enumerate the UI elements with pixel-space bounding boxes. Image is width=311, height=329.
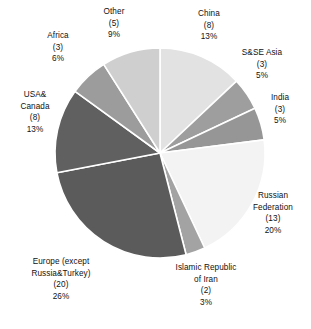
pie-label-europe: Europe (except Russia&Turkey) (20) 26% bbox=[13, 256, 109, 302]
pie-label-ssea-name: S&SE Asia bbox=[228, 47, 296, 59]
pie-label-africa-count: (3) bbox=[32, 42, 84, 54]
pie-label-europe-count: (20) bbox=[13, 279, 109, 291]
pie-label-usa-canada-count: (8) bbox=[6, 112, 64, 124]
pie-label-iran: Islamic Republic of Iran (2) 3% bbox=[164, 262, 248, 308]
pie-label-ssea-percent: 5% bbox=[228, 70, 296, 82]
pie-label-russia: Russian Federation (13) 20% bbox=[240, 190, 306, 236]
pie-label-russia-percent: 20% bbox=[240, 225, 306, 237]
pie-label-india: India (3) 5% bbox=[256, 92, 304, 127]
pie-label-other-percent: 9% bbox=[86, 29, 142, 41]
pie-label-china: China (8) 13% bbox=[182, 8, 236, 43]
pie-label-europe-name-1: Europe (except bbox=[13, 256, 109, 268]
pie-label-ssea-count: (3) bbox=[228, 59, 296, 71]
pie-label-iran-name-1: Islamic Republic bbox=[164, 262, 248, 274]
pie-label-russia-count: (13) bbox=[240, 213, 306, 225]
pie-label-russia-name-1: Russian bbox=[240, 190, 306, 202]
pie-label-china-count: (8) bbox=[182, 20, 236, 32]
pie-label-iran-percent: 3% bbox=[164, 297, 248, 309]
pie-label-usa-canada-name-1: USA& bbox=[6, 89, 64, 101]
pie-label-europe-name-2: Russia&Turkey) bbox=[13, 268, 109, 280]
pie-label-africa-name: Africa bbox=[32, 30, 84, 42]
pie-label-usa-canada-name-2: Canada bbox=[6, 101, 64, 113]
pie-label-africa: Africa (3) 6% bbox=[32, 30, 84, 65]
pie-label-usa-canada-percent: 13% bbox=[6, 124, 64, 136]
pie-label-africa-percent: 6% bbox=[32, 53, 84, 65]
pie-label-other-count: (5) bbox=[86, 18, 142, 30]
pie-chart: Other (5) 9% China (8) 13% S&SE Asia (3)… bbox=[0, 0, 311, 329]
pie-label-russia-name-2: Federation bbox=[240, 202, 306, 214]
pie-label-india-name: India bbox=[256, 92, 304, 104]
pie-label-other-name: Other bbox=[86, 6, 142, 18]
pie-label-china-percent: 13% bbox=[182, 31, 236, 43]
pie-label-europe-percent: 26% bbox=[13, 291, 109, 303]
pie-label-usa-canada: USA& Canada (8) 13% bbox=[6, 89, 64, 135]
pie-label-china-name: China bbox=[182, 8, 236, 20]
pie-label-other: Other (5) 9% bbox=[86, 6, 142, 41]
pie-label-india-count: (3) bbox=[256, 104, 304, 116]
pie-label-ssea: S&SE Asia (3) 5% bbox=[228, 47, 296, 82]
pie-label-india-percent: 5% bbox=[256, 115, 304, 127]
pie-label-iran-count: (2) bbox=[164, 285, 248, 297]
pie-label-iran-name-2: of Iran bbox=[164, 274, 248, 286]
